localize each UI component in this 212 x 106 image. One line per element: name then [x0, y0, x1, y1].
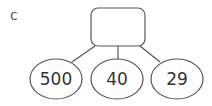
leaf-value: 40 — [106, 69, 128, 89]
connector-line — [140, 46, 160, 62]
connector-line — [72, 46, 95, 62]
leaf-value: 29 — [166, 69, 188, 89]
leaf-value: 500 — [40, 69, 72, 89]
total-box[interactable] — [91, 8, 145, 46]
partition-diagram: 500 40 29 — [0, 0, 212, 106]
